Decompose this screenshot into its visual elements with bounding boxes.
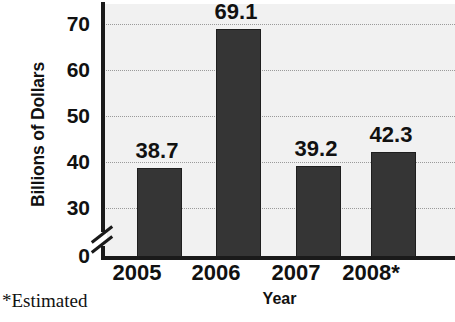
bar-2008	[371, 152, 416, 258]
y-tick-60: 60	[46, 59, 90, 80]
y-tick-50: 50	[46, 105, 90, 126]
bar-chart-figure: Billions of Dollars 70 60 50 40 30 0 38.…	[0, 0, 455, 322]
bar-2007	[296, 166, 341, 258]
y-tick-70: 70	[46, 13, 90, 34]
x-tick-2008: 2008*	[321, 262, 421, 284]
y-tick-0: 0	[46, 245, 90, 266]
bar-2006	[216, 29, 261, 258]
y-tick-40: 40	[46, 151, 90, 172]
y-tick-30: 30	[46, 197, 90, 218]
y-axis-tick-labels: 70 60 50 40 30 0	[44, 0, 90, 270]
gridline-70	[104, 24, 455, 25]
x-axis-line	[101, 256, 455, 260]
value-label-2005: 38.7	[107, 140, 207, 162]
y-axis-line	[101, 2, 105, 234]
gridline-50	[104, 116, 455, 117]
value-label-2006: 69.1	[186, 1, 286, 23]
footnote-estimated: *Estimated	[2, 290, 87, 312]
x-axis-title: Year	[104, 290, 455, 308]
gridline-60	[104, 70, 455, 71]
bar-2005	[137, 168, 182, 258]
value-label-2008: 42.3	[341, 124, 441, 146]
